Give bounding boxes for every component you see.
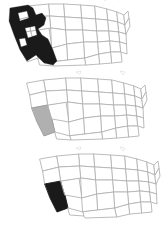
map-specks-top xyxy=(104,0,120,1)
map-panel-bottom xyxy=(35,152,158,222)
map-panel-top xyxy=(5,2,128,69)
map-panel-middle xyxy=(22,76,145,143)
us-map-top xyxy=(5,2,128,69)
map-series-figure xyxy=(0,0,162,229)
state-outlines-bottom xyxy=(40,154,160,218)
map-specks-middle xyxy=(76,71,125,75)
us-map-middle xyxy=(22,76,145,143)
state-outlines-middle xyxy=(27,78,147,140)
map-specks-bottom xyxy=(76,147,125,151)
us-map-bottom xyxy=(35,152,158,222)
